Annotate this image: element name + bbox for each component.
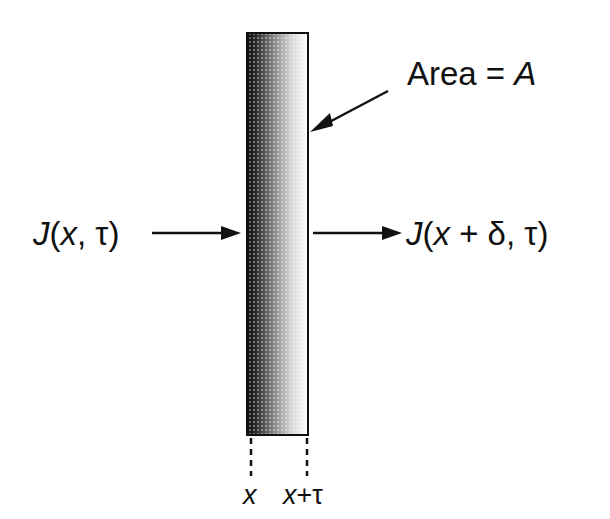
paren-open: ( (50, 215, 61, 252)
flux-function: J (33, 215, 50, 252)
separator: , (77, 215, 95, 252)
time-var: τ (95, 215, 108, 252)
incoming-flux-label: J(x, τ) (33, 217, 119, 250)
outgoing-flux-label: J(x + δ, τ) (406, 217, 548, 250)
separator: , (506, 215, 524, 252)
delta-var: δ (488, 215, 506, 252)
plus-sign: + (297, 480, 313, 510)
incoming-arrow (152, 226, 241, 240)
x-label: x (243, 480, 257, 510)
bottom-label-left: x (243, 482, 257, 509)
area-label-prefix: Area = (407, 55, 514, 92)
flux-function: J (406, 215, 423, 252)
slab (247, 33, 308, 435)
bottom-label-right: x+τ (283, 482, 323, 509)
area-symbol: A (514, 55, 536, 92)
paren-open: ( (423, 215, 434, 252)
plus-sign: + (450, 215, 488, 252)
position-var: x (61, 215, 78, 252)
tau-label: τ (312, 480, 323, 510)
position-var: x (434, 215, 451, 252)
x-label: x (283, 480, 297, 510)
area-label: Area = A (407, 57, 536, 90)
paren-close: ) (108, 215, 119, 252)
area-pointer-arrow (310, 91, 388, 132)
outgoing-arrow (313, 226, 402, 240)
paren-close: ) (537, 215, 548, 252)
time-var: τ (524, 215, 537, 252)
